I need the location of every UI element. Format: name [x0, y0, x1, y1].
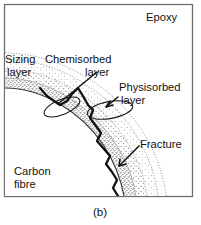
label-fracture: Fracture: [140, 138, 182, 150]
label-sizing-layer-line2: layer: [7, 66, 32, 78]
label-carbon-fibre-line1: Carbon: [14, 165, 51, 177]
label-chemisorbed-layer-line1: Chemisorbed: [45, 53, 112, 65]
label-physisorbed-layer-line2: layer: [121, 94, 146, 106]
interphase-diagram: Epoxy Sizing layer Chemisorbed layer Phy…: [0, 0, 201, 225]
label-carbon-fibre-line2: fibre: [14, 178, 36, 190]
label-sizing-layer-line1: Sizing: [5, 53, 35, 65]
label-epoxy: Epoxy: [146, 11, 177, 23]
figure-container: Epoxy Sizing layer Chemisorbed layer Phy…: [0, 0, 201, 225]
label-physisorbed-layer-line1: Physisorbed: [119, 81, 181, 93]
label-chemisorbed-layer-line2: layer: [85, 66, 110, 78]
figure-caption: (b): [93, 206, 107, 218]
